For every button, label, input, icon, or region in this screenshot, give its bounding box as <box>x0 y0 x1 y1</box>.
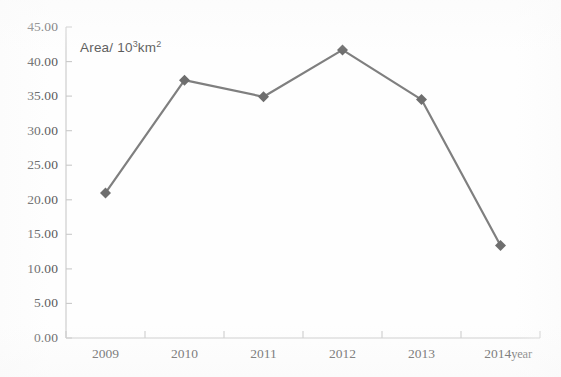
y-axis-caption-unit: km <box>138 40 156 55</box>
x-axis-tick-labels: 2009 2010 2011 2012 2013 2014year <box>0 0 561 377</box>
y-axis-caption: Area/ 103km2 <box>80 40 161 55</box>
x-tick-label-2010: 2010 <box>171 347 198 361</box>
chart-container: 45.00 40.00 35.00 30.00 25.00 20.00 15.0… <box>0 0 561 377</box>
y-axis-caption-prefix: Area/ 10 <box>80 40 133 55</box>
x-tick-label-2013: 2013 <box>408 347 435 361</box>
x-tick-label-2012: 2012 <box>329 347 356 361</box>
x-tick-label-2014-text: 2014 <box>484 346 511 361</box>
x-tick-label-2009: 2009 <box>92 347 119 361</box>
x-tick-label-2014: 2014year <box>484 347 532 361</box>
y-axis-caption-exponent-2: 2 <box>156 39 161 49</box>
x-tick-label-2011: 2011 <box>250 347 277 361</box>
x-axis-unit-label: year <box>511 347 532 361</box>
